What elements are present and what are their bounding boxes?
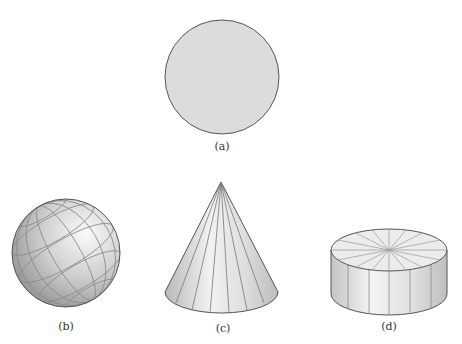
label-b: (b) [58, 320, 74, 333]
label-c: (c) [216, 322, 231, 335]
sphere-shape [0, 178, 140, 327]
cone-shape [165, 182, 278, 313]
figure-canvas [0, 0, 462, 344]
circle-shape [165, 20, 279, 134]
cylinder-shape [331, 229, 447, 315]
label-a: (a) [214, 140, 229, 153]
label-d: (d) [381, 320, 397, 333]
